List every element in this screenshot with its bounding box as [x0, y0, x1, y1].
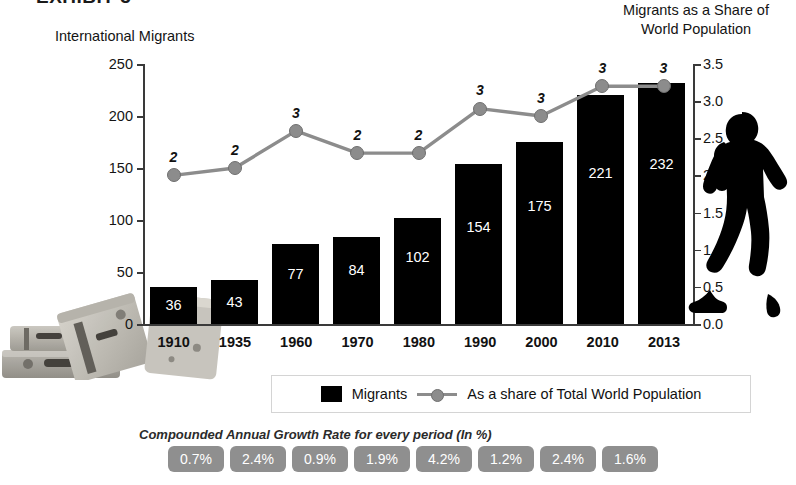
bar-value-1970: 84 — [333, 262, 380, 278]
line-point-2013[interactable] — [657, 79, 671, 93]
walking-migrant-silhouette — [688, 108, 796, 340]
x-label-1935: 1935 — [204, 334, 265, 350]
x-label-1980: 1980 — [388, 334, 449, 350]
x-label-1970: 1970 — [327, 334, 388, 350]
cagr-caption: Compounded Annual Growth Rate for every … — [139, 427, 492, 442]
left-axis-line — [143, 64, 145, 326]
left-tick-150 — [137, 168, 143, 170]
line-point-1910[interactable] — [167, 168, 181, 182]
x-label-1960: 1960 — [266, 334, 327, 350]
right-axis-title-line2: World Population — [598, 20, 794, 39]
plot-area: 0 50 100 150 200 250 0.0 0.5 1.0 1.5 2.0… — [143, 64, 695, 326]
left-tick-label-200: 200 — [87, 108, 133, 124]
bar-2013[interactable]: 232 — [638, 83, 685, 324]
cagr-row: 0.7% 2.4% 0.9% 1.9% 4.2% 1.2% 2.4% 1.6% — [143, 446, 703, 474]
left-tick-label-250: 250 — [87, 56, 133, 72]
bar-value-1960: 77 — [272, 266, 319, 282]
x-label-2000: 2000 — [511, 334, 572, 350]
bar-2000[interactable]: 175 — [516, 142, 563, 324]
x-label-1910: 1910 — [143, 334, 204, 350]
left-tick-label-50: 50 — [87, 264, 133, 280]
legend-line-label: As a share of Total World Population — [467, 386, 701, 402]
left-tick-label-100: 100 — [87, 212, 133, 228]
line-point-1980[interactable] — [412, 146, 426, 160]
line-label-2010: 3 — [598, 60, 606, 76]
cagr-chip-1980-1990: 4.2% — [416, 446, 472, 472]
left-tick-50 — [137, 272, 143, 274]
bar-1980[interactable]: 102 — [394, 218, 441, 324]
right-tick-label-3.5: 3.5 — [703, 56, 723, 72]
line-point-2010[interactable] — [595, 79, 609, 93]
x-label-2013: 2013 — [633, 334, 694, 350]
cagr-chip-2000-2010: 2.4% — [540, 446, 596, 472]
bar-1960[interactable]: 77 — [272, 244, 319, 324]
left-tick-0 — [137, 324, 143, 326]
bar-value-2010: 221 — [577, 165, 624, 181]
line-label-1910: 2 — [170, 149, 178, 165]
line-label-1990: 3 — [476, 82, 484, 98]
line-label-1980: 2 — [415, 127, 423, 143]
line-point-1990[interactable] — [473, 102, 487, 116]
right-tick-label-3.0: 3.0 — [703, 93, 723, 109]
right-axis-title-line1: Migrants as a Share of — [598, 1, 794, 20]
bar-value-1910: 36 — [150, 297, 197, 313]
cagr-chip-1935-1960: 2.4% — [230, 446, 286, 472]
bar-1970[interactable]: 84 — [333, 237, 380, 324]
cagr-chip-1910-1935: 0.7% — [168, 446, 224, 472]
right-tick-3.0 — [695, 101, 701, 103]
chart-canvas: EXHIBIT 3 International Migrants Migrant… — [0, 0, 796, 485]
line-point-2000[interactable] — [534, 109, 548, 123]
line-label-1960: 3 — [292, 105, 300, 121]
cagr-chip-1960-1970: 0.9% — [292, 446, 348, 472]
bar-value-2000: 175 — [516, 198, 563, 214]
line-label-2000: 3 — [537, 90, 545, 106]
bar-1935[interactable]: 43 — [211, 280, 258, 325]
legend-bar-swatch — [321, 386, 342, 402]
x-label-1990: 1990 — [450, 334, 511, 350]
line-label-1970: 2 — [353, 127, 361, 143]
x-axis-line — [143, 324, 695, 326]
left-tick-100 — [137, 220, 143, 222]
cagr-chip-1990-2000: 1.2% — [478, 446, 534, 472]
left-tick-200 — [137, 116, 143, 118]
left-tick-250 — [137, 64, 143, 66]
bar-value-1980: 102 — [394, 249, 441, 265]
bar-1990[interactable]: 154 — [455, 164, 502, 324]
right-axis-title: Migrants as a Share of World Population — [598, 1, 794, 39]
line-label-2013: 3 — [660, 60, 668, 76]
page-title: EXHIBIT 3 — [36, 0, 131, 8]
x-axis-labels: 1910 1935 1960 1970 1980 1990 2000 2010 … — [143, 334, 695, 358]
bar-value-2013: 232 — [638, 156, 685, 172]
cagr-chip-1970-1980: 1.9% — [354, 446, 410, 472]
left-tick-label-0: 0 — [87, 316, 133, 332]
legend: Migrants As a share of Total World Popul… — [271, 375, 751, 413]
legend-line-swatch — [417, 388, 457, 400]
left-axis-title: International Migrants — [55, 28, 194, 44]
bar-value-1935: 43 — [211, 294, 258, 310]
cagr-chip-2010-2013: 1.6% — [602, 446, 658, 472]
right-tick-3.5 — [695, 64, 701, 66]
line-label-1935: 2 — [231, 142, 239, 158]
bar-1910[interactable]: 36 — [150, 287, 197, 324]
legend-bar-label: Migrants — [352, 386, 408, 402]
x-label-2010: 2010 — [572, 334, 633, 350]
bar-2010[interactable]: 221 — [577, 95, 624, 325]
line-point-1935[interactable] — [228, 161, 242, 175]
bar-value-1990: 154 — [455, 219, 502, 235]
left-tick-label-150: 150 — [87, 160, 133, 176]
line-point-1960[interactable] — [289, 124, 303, 138]
line-point-1970[interactable] — [350, 146, 364, 160]
